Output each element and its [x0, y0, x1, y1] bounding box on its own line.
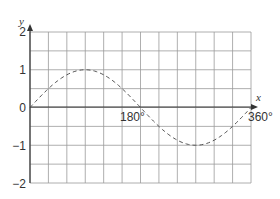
y-axis-arrow-icon: [27, 24, 33, 31]
x-tick-180: 180°: [120, 110, 145, 124]
x-tick-360: 360°: [248, 110, 273, 124]
y-tick-minus-2: −2: [12, 177, 26, 191]
x-axis-label: x: [255, 91, 261, 103]
y-tick-2: 2: [19, 25, 26, 39]
y-tick-minus-1: −1: [12, 139, 26, 153]
y-tick-1: 1: [19, 63, 26, 77]
axes: [27, 24, 258, 183]
sine-chart: y x 2 1 0 −1 −2 180° 360°: [0, 0, 280, 199]
y-tick-0: 0: [19, 101, 26, 115]
